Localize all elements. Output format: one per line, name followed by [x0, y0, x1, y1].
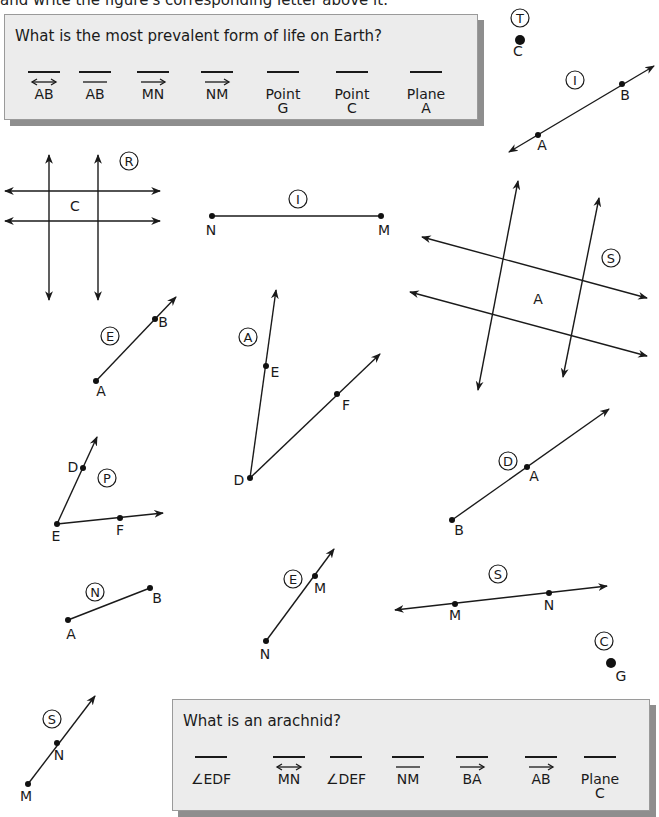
circled-letter-icon: E	[284, 570, 302, 588]
point-label: N	[544, 597, 554, 613]
point-label: N	[54, 747, 64, 763]
point-dot-icon	[312, 573, 318, 579]
svg-text:T: T	[515, 11, 524, 26]
figure-line	[422, 237, 647, 298]
figure-point-G: CG	[595, 632, 626, 684]
point-label: A	[66, 626, 76, 642]
figure-ray-AB: EAB	[93, 297, 176, 399]
point-label: A	[537, 137, 547, 153]
point-label: F	[116, 522, 124, 538]
circled-letter-icon: A	[239, 328, 257, 346]
point-dot-icon	[209, 213, 215, 219]
point-label: N	[206, 222, 216, 238]
svg-text:I: I	[296, 192, 300, 207]
point-dot-icon	[546, 590, 552, 596]
figure-ray-NM: ENM	[260, 549, 334, 662]
point-label: A	[529, 468, 539, 484]
figure-line-AB: IAB	[509, 66, 654, 153]
circled-letter-icon: S	[489, 565, 507, 583]
point-label: D	[68, 459, 79, 475]
circled-letter-icon: S	[43, 710, 61, 728]
svg-text:P: P	[103, 471, 111, 486]
geometry-figures: TCIABRCINMSAEABADEFPEDFDBANABENMSMNCGSMN	[0, 0, 659, 817]
circled-letter-icon: C	[595, 632, 613, 650]
figure-line	[452, 409, 609, 520]
point-dot-icon	[152, 316, 158, 322]
point-dot-icon	[80, 465, 86, 471]
svg-text:S: S	[48, 712, 56, 727]
svg-text:A: A	[244, 330, 253, 345]
point-label: B	[152, 590, 162, 606]
circled-letter-icon: I	[566, 71, 584, 89]
plane-label: C	[70, 198, 80, 214]
point-dot-icon	[247, 475, 253, 481]
svg-text:D: D	[503, 454, 513, 469]
circled-letter-icon: S	[602, 249, 620, 267]
circled-letter-icon: D	[499, 452, 517, 470]
svg-text:C: C	[599, 634, 608, 649]
figure-segment-AB: NAB	[65, 583, 162, 642]
figure-line	[395, 586, 607, 610]
figure-ray-MN: SMN	[20, 696, 95, 804]
point-label: F	[342, 397, 350, 413]
circled-letter-icon: N	[86, 583, 104, 601]
svg-text:N: N	[90, 585, 100, 600]
point-dot-icon	[263, 638, 269, 644]
circled-letter-icon: E	[101, 327, 119, 345]
figure-line	[68, 588, 150, 620]
svg-text:S: S	[494, 567, 502, 582]
figure-ray-BA: DBA	[449, 409, 609, 538]
point-dot-icon	[25, 781, 31, 787]
point-label: E	[271, 364, 280, 380]
figure-segment-NM: INM	[206, 190, 390, 238]
point-label: D	[234, 472, 245, 488]
svg-text:E: E	[106, 329, 114, 344]
point-label: C	[513, 43, 523, 59]
point-dot-icon	[54, 521, 60, 527]
point-dot-icon	[606, 658, 616, 668]
point-label: B	[158, 314, 168, 330]
plane-label: A	[533, 291, 543, 307]
figure-line-MN: SMN	[395, 565, 607, 623]
point-label: E	[52, 528, 61, 544]
point-dot-icon	[54, 740, 60, 746]
svg-text:R: R	[124, 154, 133, 169]
circled-letter-icon: P	[98, 469, 116, 487]
point-label: M	[378, 222, 390, 238]
figure-line	[509, 66, 654, 152]
point-label: N	[260, 646, 270, 662]
figure-line	[57, 437, 97, 524]
figure-line	[478, 181, 518, 390]
figure-line	[28, 696, 95, 784]
point-dot-icon	[263, 363, 269, 369]
point-dot-icon	[378, 213, 384, 219]
circled-letter-icon: I	[289, 190, 307, 208]
point-dot-icon	[117, 515, 123, 521]
point-label: M	[314, 580, 326, 596]
point-label: G	[616, 668, 627, 684]
svg-text:S: S	[607, 251, 615, 266]
figure-plane-A: SA	[410, 181, 647, 390]
figure-line	[57, 513, 163, 524]
figure-angle-EDF: ADEF	[234, 290, 380, 488]
point-dot-icon	[334, 391, 340, 397]
circled-letter-icon: T	[511, 9, 529, 27]
circled-letter-icon: R	[120, 152, 138, 170]
point-label: A	[96, 383, 106, 399]
figure-plane-C: RC	[5, 152, 160, 300]
figure-line	[250, 290, 276, 478]
svg-text:I: I	[573, 73, 577, 88]
point-label: B	[620, 87, 630, 103]
figure-angle-DEF: PEDF	[52, 437, 163, 544]
point-label: B	[454, 522, 464, 538]
figure-line	[410, 292, 647, 356]
figure-line	[563, 198, 599, 377]
figure-point-C: TC	[511, 9, 529, 59]
point-label: M	[20, 788, 32, 804]
point-dot-icon	[65, 617, 71, 623]
figure-line	[250, 354, 380, 478]
point-label: M	[449, 607, 461, 623]
svg-text:E: E	[289, 572, 297, 587]
